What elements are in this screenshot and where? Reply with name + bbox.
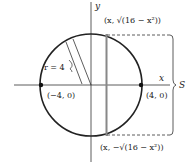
radius-line-offset bbox=[66, 42, 82, 84]
s-brace bbox=[170, 35, 176, 135]
x-axis-label: x bbox=[159, 73, 164, 83]
y-axis-label: y bbox=[94, 1, 101, 11]
point-left-label: (−4, 0) bbox=[47, 91, 75, 100]
point-right-label: (4, 0) bbox=[146, 91, 168, 100]
point-left bbox=[39, 83, 43, 87]
radius-label: r = 4 bbox=[44, 63, 65, 72]
point-right bbox=[139, 83, 143, 87]
side-label: S bbox=[179, 80, 185, 90]
radius-line bbox=[73, 39, 91, 85]
bottom-point-label: (x, −√(16 − x²)) bbox=[100, 143, 164, 152]
circle-diagram: y x r = 4 (−4, 0) (4, 0) (x, √(16 − x²))… bbox=[0, 0, 195, 167]
vertical-slice bbox=[106, 34, 108, 136]
top-point-label: (x, √(16 − x²)) bbox=[104, 16, 161, 25]
radius-brace bbox=[69, 60, 72, 72]
